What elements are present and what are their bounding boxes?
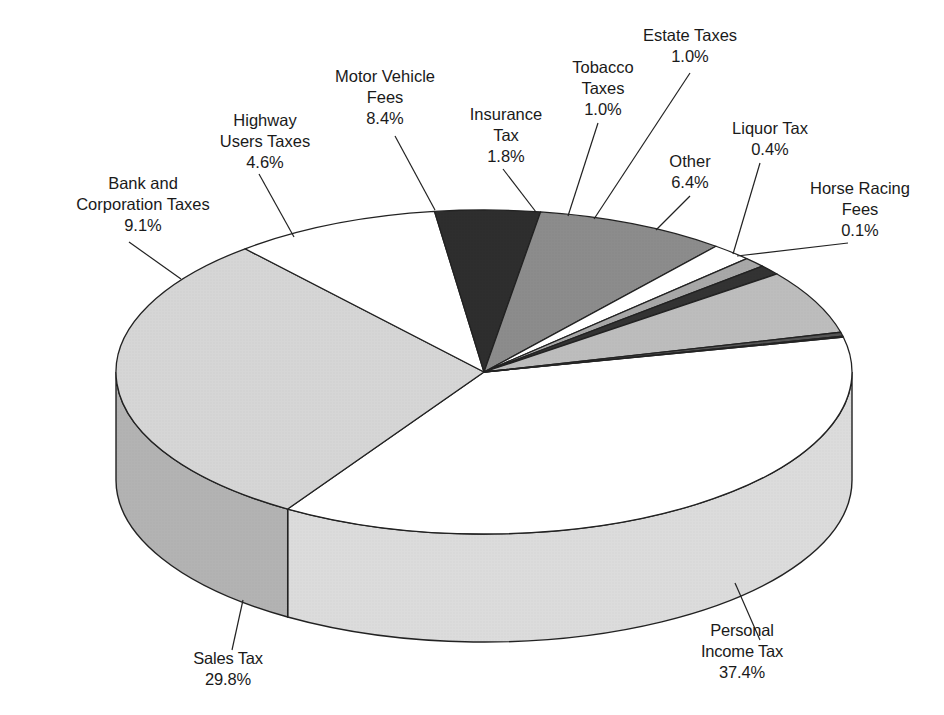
leader-line (395, 136, 435, 210)
label-value: 8.4% (310, 108, 460, 129)
label-bank-corporation-taxes: Bank and Corporation Taxes 9.1% (38, 173, 248, 236)
label-text: Income Tax (672, 641, 812, 662)
label-motor-vehicle-fees: Motor Vehicle Fees 8.4% (310, 66, 460, 129)
label-text: Motor Vehicle (310, 66, 460, 87)
label-insurance-tax: Insurance Tax 1.8% (446, 104, 566, 167)
label-value: 9.1% (38, 215, 248, 236)
label-value: 0.4% (700, 139, 840, 160)
label-text: Insurance (446, 104, 566, 125)
label-text: Fees (310, 87, 460, 108)
label-value: 1.8% (446, 146, 566, 167)
label-text: Tax (446, 125, 566, 146)
label-text: Estate Taxes (620, 25, 760, 46)
label-text: Taxes (553, 78, 653, 99)
leader-line (232, 600, 243, 650)
label-value: 1.0% (553, 99, 653, 120)
label-text: Liquor Tax (700, 118, 840, 139)
label-value: 37.4% (672, 662, 812, 683)
label-text: Users Taxes (190, 131, 340, 152)
label-text: Personal (672, 620, 812, 641)
label-text: Horse Racing (780, 178, 940, 199)
leader-line (259, 174, 294, 237)
leader-line (656, 196, 690, 230)
label-value: 6.4% (640, 172, 740, 193)
label-text: Corporation Taxes (38, 194, 248, 215)
label-value: 29.8% (158, 669, 298, 690)
label-text: Fees (780, 199, 940, 220)
label-value: 4.6% (190, 152, 340, 173)
label-text: Bank and (38, 173, 248, 194)
pie-top-face (116, 210, 852, 534)
label-personal-income-tax: Personal Income Tax 37.4% (672, 620, 812, 683)
label-text: Sales Tax (158, 648, 298, 669)
label-estate-taxes: Estate Taxes 1.0% (620, 25, 760, 67)
leader-line (737, 243, 848, 256)
label-value: 0.1% (780, 220, 940, 241)
label-horse-racing-fees: Horse Racing Fees 0.1% (780, 178, 940, 241)
label-sales-tax: Sales Tax 29.8% (158, 648, 298, 690)
leader-line (129, 242, 181, 279)
label-value: 1.0% (620, 46, 760, 67)
leader-line (568, 123, 598, 216)
leader-line (503, 169, 536, 212)
label-liquor-tax: Liquor Tax 0.4% (700, 118, 840, 160)
